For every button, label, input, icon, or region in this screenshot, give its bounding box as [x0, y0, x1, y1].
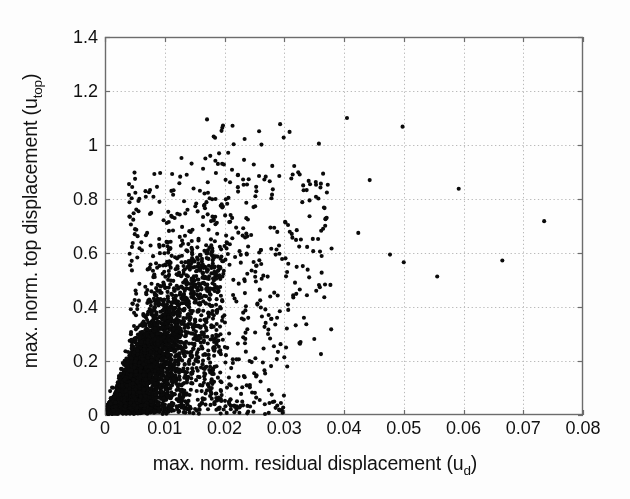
x-axis-title-tail: ): [471, 452, 477, 474]
y-tick-label: 0.2: [40, 351, 98, 372]
x-tick-label: 0.02: [207, 418, 242, 439]
y-tick-label: 1.4: [40, 27, 98, 48]
x-tick-label: 0.05: [386, 418, 421, 439]
x-axis-title: max. norm. residual displacement (ud): [0, 452, 630, 478]
y-axis-title-main: max. norm. top displacement (u: [19, 98, 41, 368]
x-tick-label: 0: [100, 418, 110, 439]
y-tick-label: 0.8: [40, 189, 98, 210]
y-tick-label: 1: [40, 135, 98, 156]
x-tick-label: 0.01: [147, 418, 182, 439]
y-axis-title: max. norm. top displacement (utop): [19, 74, 45, 369]
y-tick-label: 0: [40, 405, 98, 426]
scatter-plot-figure: max. norm. top displacement (utop) max. …: [0, 0, 630, 499]
x-tick-label: 0.07: [506, 418, 541, 439]
y-tick-label: 0.4: [40, 297, 98, 318]
x-tick-label: 0.08: [565, 418, 600, 439]
x-tick-label: 0.03: [267, 418, 302, 439]
x-tick-label: 0.06: [446, 418, 481, 439]
y-tick-label: 1.2: [40, 81, 98, 102]
y-axis-title-tail: ): [19, 74, 41, 80]
x-tick-label: 0.04: [326, 418, 361, 439]
x-axis-title-subscript: d: [464, 463, 471, 478]
y-tick-label: 0.6: [40, 243, 98, 264]
x-axis-title-main: max. norm. residual displacement (u: [153, 452, 464, 474]
